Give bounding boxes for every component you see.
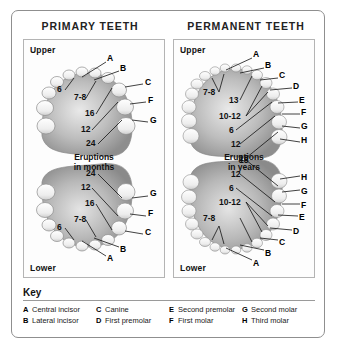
key-name-b: Lateral incisor bbox=[32, 315, 79, 326]
permanent-lower-letter-e: E bbox=[299, 213, 305, 222]
primary-lower-letter-g: G bbox=[150, 189, 157, 198]
key-column-1: A Central incisor B Lateral incisor bbox=[23, 304, 96, 327]
key-letter-c: C bbox=[96, 304, 105, 315]
permanent-lower-letter-c: C bbox=[279, 238, 285, 247]
permanent-lower-number-6: 6 bbox=[229, 184, 234, 193]
permanent-lower-letter-d: D bbox=[293, 227, 299, 236]
primary-upper-number-6: 6 bbox=[57, 85, 62, 94]
key-entry-h: H Third molar bbox=[242, 315, 315, 326]
panels-container: Upper Lower Eruptions in months A B C F … bbox=[23, 39, 315, 278]
key-name-g: Second molar bbox=[251, 304, 297, 315]
permanent-lower-letter-b: B bbox=[265, 249, 271, 258]
key-title: Key bbox=[23, 287, 315, 298]
key-name-e: Second premolar bbox=[178, 304, 235, 315]
key-section: Key A Central incisor B Lateral incisor … bbox=[23, 287, 315, 329]
key-columns: A Central incisor B Lateral incisor C Ca… bbox=[23, 304, 315, 327]
key-name-a: Central incisor bbox=[32, 304, 80, 315]
primary-upper-number-24: 24 bbox=[86, 139, 95, 148]
key-entry-e: E Second premolar bbox=[169, 304, 242, 315]
key-entry-c: C Canine bbox=[96, 304, 169, 315]
primary-upper-letter-g: G bbox=[150, 116, 157, 125]
permanent-lower-letter-a: A bbox=[253, 259, 259, 268]
permanent-upper-letter-f: F bbox=[301, 108, 306, 117]
primary-upper-letter-a: A bbox=[107, 54, 113, 63]
permanent-upper-number-6: 6 bbox=[229, 126, 234, 135]
key-letter-b: B bbox=[23, 315, 32, 326]
title-primary-teeth: PRIMARY TEETH bbox=[12, 20, 168, 32]
primary-lower-number-16: 16 bbox=[85, 199, 94, 208]
permanent-lower-number-10-12: 10-12 bbox=[219, 198, 241, 207]
key-entry-f: F First molar bbox=[169, 315, 242, 326]
primary-lower-number-6: 6 bbox=[57, 223, 62, 232]
primary-upper-number-12: 12 bbox=[81, 125, 90, 134]
key-letter-a: A bbox=[23, 304, 32, 315]
primary-arch-illustration bbox=[24, 40, 164, 277]
primary-lower-label: Lower bbox=[30, 263, 56, 273]
permanent-lower-letter-f: F bbox=[301, 201, 306, 210]
key-name-f: First molar bbox=[178, 315, 213, 326]
panel-permanent-teeth: Upper Lower Eruptions in years A B C D E… bbox=[173, 39, 315, 278]
primary-lower-number-24: 24 bbox=[86, 169, 95, 178]
panel-primary-teeth: Upper Lower Eruptions in months A B C F … bbox=[23, 39, 165, 278]
key-letter-d: D bbox=[96, 315, 105, 326]
permanent-upper-number-10-12: 10-12 bbox=[219, 112, 241, 121]
primary-upper-label: Upper bbox=[30, 45, 56, 55]
key-divider bbox=[23, 300, 315, 301]
permanent-lower-number-18: 18 bbox=[239, 156, 248, 165]
primary-lower-letter-b: B bbox=[120, 245, 126, 254]
primary-upper-letter-f: F bbox=[148, 96, 153, 105]
key-entry-d: D First premolar bbox=[96, 315, 169, 326]
primary-upper-number-7-8: 7-8 bbox=[74, 93, 86, 102]
primary-lower-letter-c: C bbox=[145, 228, 151, 237]
title-permanent-teeth: PERMANENT TEETH bbox=[168, 20, 324, 32]
permanent-upper-letter-d: D bbox=[293, 82, 299, 91]
dental-eruption-figure: PRIMARY TEETH PERMANENT TEETH bbox=[11, 10, 325, 338]
key-entry-a: A Central incisor bbox=[23, 304, 96, 315]
permanent-upper-letter-c: C bbox=[279, 71, 285, 80]
permanent-upper-number-12: 12 bbox=[231, 140, 240, 149]
permanent-upper-letter-h: H bbox=[301, 136, 307, 145]
permanent-upper-letter-g: G bbox=[301, 122, 308, 131]
key-letter-f: F bbox=[169, 315, 178, 326]
permanent-upper-label: Upper bbox=[180, 45, 206, 55]
key-column-3: E Second premolar F First molar bbox=[169, 304, 242, 327]
permanent-lower-label: Lower bbox=[180, 263, 206, 273]
primary-lower-letter-a: A bbox=[107, 254, 113, 263]
key-name-h: Third molar bbox=[251, 315, 289, 326]
permanent-upper-number-7-8: 7-8 bbox=[203, 88, 215, 97]
primary-lower-number-7-8: 7-8 bbox=[74, 215, 86, 224]
key-letter-e: E bbox=[169, 304, 178, 315]
permanent-lower-letter-g: G bbox=[301, 187, 308, 196]
permanent-upper-letter-e: E bbox=[299, 96, 305, 105]
key-column-4: G Second molar H Third molar bbox=[242, 304, 315, 327]
primary-upper-letter-c: C bbox=[145, 78, 151, 87]
key-letter-g: G bbox=[242, 304, 251, 315]
permanent-lower-number-7-8: 7-8 bbox=[203, 214, 215, 223]
primary-lower-letter-f: F bbox=[148, 209, 153, 218]
permanent-lower-letter-h: H bbox=[301, 173, 307, 182]
primary-upper-letter-b: B bbox=[120, 64, 126, 73]
permanent-upper-number-13: 13 bbox=[229, 96, 238, 105]
primary-upper-number-16: 16 bbox=[85, 109, 94, 118]
key-entry-g: G Second molar bbox=[242, 304, 315, 315]
permanent-upper-letter-b: B bbox=[265, 61, 271, 70]
key-entry-b: B Lateral incisor bbox=[23, 315, 96, 326]
key-column-2: C Canine D First premolar bbox=[96, 304, 169, 327]
permanent-upper-letter-a: A bbox=[253, 50, 259, 59]
primary-lower-number-12: 12 bbox=[81, 183, 90, 192]
key-name-d: First premolar bbox=[105, 315, 151, 326]
key-letter-h: H bbox=[242, 315, 251, 326]
permanent-lower-number-12: 12 bbox=[231, 170, 240, 179]
panel-titles: PRIMARY TEETH PERMANENT TEETH bbox=[12, 20, 324, 32]
key-name-c: Canine bbox=[105, 304, 129, 315]
